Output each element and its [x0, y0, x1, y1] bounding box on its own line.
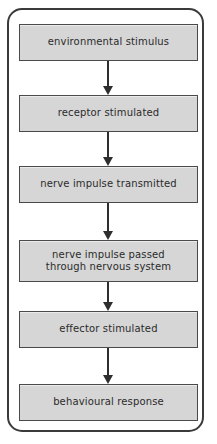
- flow-node-label: behavioural response: [49, 396, 168, 409]
- flow-arrow-shaft-4: [107, 282, 109, 302]
- flow-node-nerve-impulse-passed[interactable]: nerve impulse passed through nervous sys…: [19, 240, 198, 282]
- flow-arrow-shaft-5: [107, 348, 109, 375]
- flow-node-label: environmental stimulus: [44, 36, 173, 49]
- flow-arrow-head-5-down-arrow-icon: [103, 375, 113, 384]
- diagram-outer-frame: [7, 8, 204, 432]
- flow-arrow-head-1-down-arrow-icon: [103, 86, 113, 95]
- flow-arrow-head-3-down-arrow-icon: [103, 231, 113, 240]
- flow-arrow-shaft-1: [107, 61, 109, 86]
- flow-arrow-head-4-down-arrow-icon: [103, 302, 113, 311]
- flow-node-receptor-stimulated[interactable]: receptor stimulated: [19, 95, 198, 132]
- flow-node-label: nerve impulse passed through nervous sys…: [42, 249, 175, 274]
- flow-node-label: nerve impulse transmitted: [36, 178, 181, 191]
- flow-arrow-shaft-2: [107, 132, 109, 157]
- flow-node-label: effector stimulated: [55, 323, 161, 336]
- flow-node-label: receptor stimulated: [54, 107, 164, 120]
- flowchart-canvas: environmental stimulus receptor stimulat…: [0, 0, 217, 444]
- flow-arrow-shaft-3: [107, 203, 109, 231]
- flow-arrow-head-2-down-arrow-icon: [103, 157, 113, 166]
- flow-node-nerve-impulse-transmitted[interactable]: nerve impulse transmitted: [19, 166, 198, 203]
- flow-node-environmental-stimulus[interactable]: environmental stimulus: [19, 24, 198, 61]
- flow-node-effector-stimulated[interactable]: effector stimulated: [19, 311, 198, 348]
- flow-node-behavioural-response[interactable]: behavioural response: [19, 384, 198, 421]
